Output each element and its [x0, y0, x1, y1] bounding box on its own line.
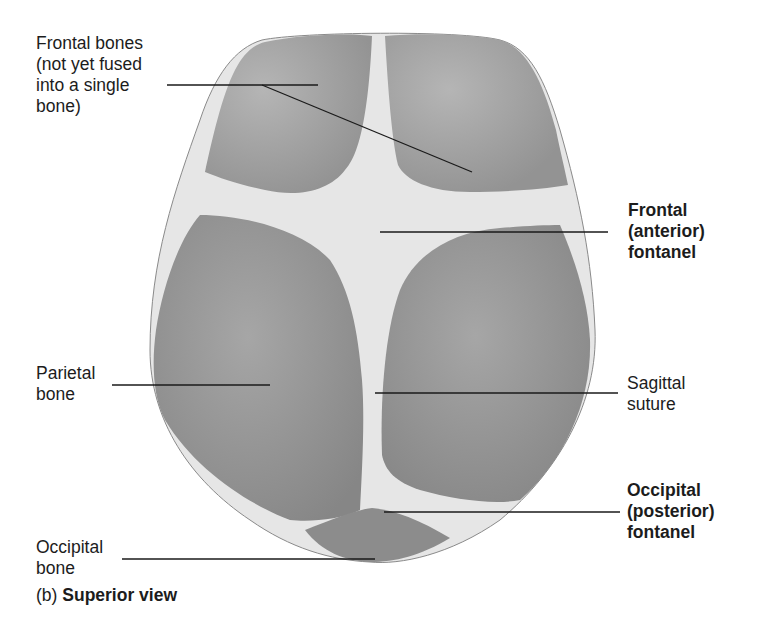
- label-occipital-fontanel: Occipital (posterior) fontanel: [627, 480, 715, 543]
- label-frontal-bones: Frontal bones (not yet fused into a sing…: [36, 33, 143, 117]
- label-frontal-fontanel: Frontal (anterior) fontanel: [628, 200, 705, 263]
- caption-prefix: (b): [36, 585, 57, 605]
- label-parietal-bone: Parietal bone: [36, 363, 95, 405]
- right-frontal-bone: [385, 34, 568, 192]
- label-occipital-bone: Occipital bone: [36, 537, 103, 579]
- label-sagittal-suture: Sagittal suture: [627, 373, 685, 415]
- figure-caption: (b) Superior view: [36, 585, 177, 606]
- fetal-skull-superior-view-figure: Frontal bones (not yet fused into a sing…: [0, 0, 764, 638]
- caption-title: Superior view: [62, 585, 177, 605]
